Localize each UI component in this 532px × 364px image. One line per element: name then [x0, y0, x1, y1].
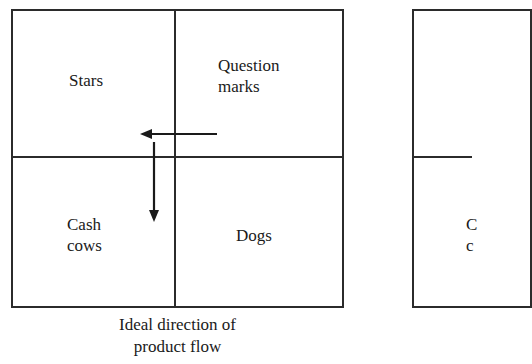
- diagram-caption: Ideal direction of product flow: [11, 314, 344, 358]
- partial-matrix-horizontal-divider: [412, 156, 472, 158]
- partial-label-line1: C: [466, 214, 477, 235]
- bcg-matrix-partial: [412, 9, 532, 308]
- partial-quadrant-label: C c: [466, 214, 477, 256]
- caption-line2: product flow: [11, 336, 344, 358]
- partial-label-line2: c: [466, 235, 477, 256]
- arrow-left-icon: [140, 129, 217, 139]
- caption-line1: Ideal direction of: [11, 314, 344, 336]
- arrow-down-icon: [149, 142, 159, 222]
